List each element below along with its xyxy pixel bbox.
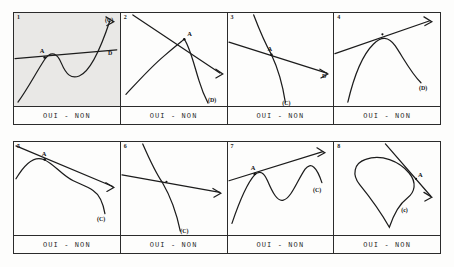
panel-5-answer[interactable]: OUI - NON (14, 235, 120, 253)
panel-8-plot: 8 A (c) (334, 142, 440, 235)
svg-text:A: A (418, 171, 423, 178)
panel-5-answer-label: OUI - NON (43, 241, 91, 249)
panel-5[interactable]: 5 A (C) OUI - NON (14, 142, 121, 253)
svg-text:(C): (C) (312, 187, 320, 194)
svg-text:(C): (C) (97, 216, 105, 223)
panel-8[interactable]: 8 A (c) OUI - NON (334, 142, 440, 253)
panel-3-plot: 3 A (C) D (228, 13, 334, 106)
panel-3[interactable]: 3 A (C) D OUI - NON (228, 13, 335, 124)
panel-7-answer-label: OUI - NON (257, 241, 305, 249)
panel-4-plot: 4 (D) (334, 13, 440, 106)
panel-7[interactable]: 7 A (C) OUI - NON (228, 142, 335, 253)
panel-1-answer-label: OUI - NON (43, 112, 91, 120)
panel-1-answer[interactable]: OUI - NON (14, 106, 120, 124)
panel-2-answer-label: OUI - NON (150, 112, 198, 120)
panel-row-2: 5 A (C) OUI - NON 6 (13, 141, 441, 254)
svg-text:D: D (108, 50, 112, 56)
panel-4-answer-label: OUI - NON (363, 112, 411, 120)
panel-6-answer-label: OUI - NON (150, 241, 198, 249)
panel-2-answer[interactable]: OUI - NON (121, 106, 227, 124)
panel-3-answer-label: OUI - NON (257, 112, 305, 120)
panel-row-1: 1 A (C) D OUI - NON 2 (13, 12, 441, 125)
panel-6-answer[interactable]: OUI - NON (121, 235, 227, 253)
panel-8-answer-label: OUI - NON (363, 241, 411, 249)
panel-6-plot: 6 (C) (121, 142, 227, 235)
svg-text:(C): (C) (180, 228, 188, 235)
panel-7-answer[interactable]: OUI - NON (228, 235, 334, 253)
svg-text:A: A (267, 45, 272, 52)
panel-8-answer[interactable]: OUI - NON (334, 235, 440, 253)
svg-text:(D): (D) (419, 86, 427, 93)
panel-7-plot: 7 A (C) (228, 142, 334, 235)
panel-1[interactable]: 1 A (C) D OUI - NON (14, 13, 121, 124)
panel-3-answer[interactable]: OUI - NON (228, 106, 334, 124)
svg-text:A: A (187, 30, 192, 37)
panel-5-plot: 5 A (C) (14, 142, 120, 235)
panel-2-plot: 2 A (D) (121, 13, 227, 106)
panel-2[interactable]: 2 A (D) OUI - NON (121, 13, 228, 124)
svg-text:A: A (250, 164, 255, 171)
svg-text:A: A (40, 47, 45, 54)
svg-text:(c): (c) (401, 207, 408, 214)
worksheet-sheet: 1 A (C) D OUI - NON 2 (0, 0, 454, 267)
panel-6[interactable]: 6 (C) OUI - NON (121, 142, 228, 253)
svg-text:(C): (C) (282, 100, 290, 106)
panel-4[interactable]: 4 (D) OUI - NON (334, 13, 440, 124)
svg-text:(D): (D) (208, 97, 216, 104)
svg-text:A: A (42, 150, 47, 157)
panel-4-answer[interactable]: OUI - NON (334, 106, 440, 124)
panel-1-plot: 1 A (C) D (14, 13, 120, 106)
